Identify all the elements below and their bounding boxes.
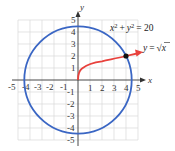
- x-axis-label: x: [147, 75, 152, 85]
- circle-equation-label: x2+y2= 20: [109, 22, 154, 34]
- svg-text:1: 1: [71, 63, 76, 73]
- svg-text:-3: -3: [67, 111, 75, 121]
- svg-text:5: 5: [71, 15, 76, 25]
- svg-text:-5: -5: [67, 135, 75, 145]
- sqrt-curve-arrow-icon: [135, 50, 143, 57]
- x-axis-arrow-icon: [140, 78, 146, 83]
- svg-text:-3: -3: [34, 82, 42, 92]
- svg-text:3: 3: [112, 83, 117, 93]
- svg-text:4: 4: [71, 27, 76, 37]
- svg-text:-2: -2: [46, 82, 54, 92]
- svg-text:-1: -1: [67, 87, 75, 97]
- svg-text:2: 2: [71, 51, 76, 61]
- x-tick-labels: -5 -4 -3 -2 -1 1 2 3 4 5: [8, 82, 141, 93]
- chart-canvas: x y -5 -4 -3 -2 -1 1 2 3 4 5 5 4 3 2 1 -…: [0, 0, 175, 151]
- sqrt-curve: [78, 54, 137, 81]
- svg-text:4: 4: [124, 83, 129, 93]
- svg-text:2: 2: [100, 83, 105, 93]
- y-axis-label: y: [79, 2, 84, 12]
- svg-text:3: 3: [71, 39, 76, 49]
- svg-text:-5: -5: [8, 82, 16, 92]
- svg-text:-4: -4: [67, 123, 75, 133]
- svg-text:-2: -2: [67, 99, 75, 109]
- svg-text:1: 1: [88, 83, 93, 93]
- intersection-point: [123, 53, 128, 58]
- sqrt-equation-label: y=√x: [142, 43, 167, 53]
- svg-text:5: 5: [136, 83, 141, 93]
